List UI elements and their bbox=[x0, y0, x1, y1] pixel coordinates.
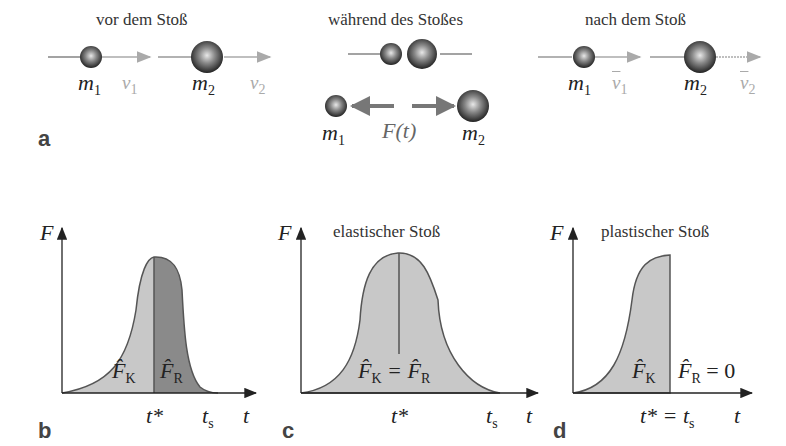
label-after-m1: m1 bbox=[568, 70, 591, 99]
label-during-m1: m1 bbox=[322, 120, 345, 149]
c-equation: F̂K = F̂R bbox=[358, 358, 430, 387]
b-x-axis-label: t bbox=[243, 403, 249, 429]
mass-1-ball bbox=[80, 46, 102, 68]
c-y-axis-label: F bbox=[278, 220, 291, 246]
b-tick-ts: ts bbox=[202, 403, 214, 432]
panel-letter-b: b bbox=[38, 418, 51, 444]
panel-letter-a: a bbox=[38, 126, 50, 152]
d-label-fr: F̂R = 0 bbox=[678, 358, 735, 387]
b-label-fr: F̂R bbox=[160, 358, 183, 387]
during-caption: während des Stoßes bbox=[328, 10, 463, 30]
label-after-m2: m2 bbox=[684, 70, 707, 99]
after-caption: nach dem Stoß bbox=[585, 10, 686, 30]
b-label-fk: F̂K bbox=[112, 358, 136, 387]
mass-2-ball bbox=[191, 41, 223, 73]
panel-letter-d: d bbox=[553, 418, 566, 444]
during-collision-group bbox=[325, 39, 489, 122]
label-after-v1: v1 bbox=[612, 72, 627, 98]
b-tick-tstar: t* bbox=[146, 403, 163, 429]
label-m2: m2 bbox=[192, 70, 215, 99]
label-after-v2: v2 bbox=[740, 72, 755, 98]
before-caption: vor dem Stoß bbox=[96, 10, 188, 30]
after-collision-group bbox=[538, 41, 760, 73]
label-during-m2: m2 bbox=[462, 120, 485, 149]
label-v1: v1 bbox=[122, 72, 137, 98]
before-collision-group bbox=[48, 41, 270, 73]
c-x-axis-label: t bbox=[526, 403, 532, 429]
panel-letter-c: c bbox=[282, 418, 294, 444]
d-tick-tstar-ts: t* = ts bbox=[640, 403, 695, 432]
c-tick-ts: ts bbox=[486, 403, 498, 432]
label-force: F(t) bbox=[382, 118, 416, 144]
d-x-axis-label: t bbox=[734, 403, 740, 429]
label-m1: m1 bbox=[78, 70, 101, 99]
label-v2: v2 bbox=[250, 72, 265, 98]
d-title: plastischer Stoß bbox=[601, 222, 709, 242]
chart-b bbox=[62, 228, 256, 393]
c-title: elastischer Stoß bbox=[333, 222, 440, 242]
c-tick-tstar: t* bbox=[391, 403, 408, 429]
b-y-axis-label: F bbox=[40, 220, 53, 246]
d-label-fk: F̂K bbox=[632, 358, 656, 387]
d-y-axis-label: F bbox=[550, 220, 563, 246]
